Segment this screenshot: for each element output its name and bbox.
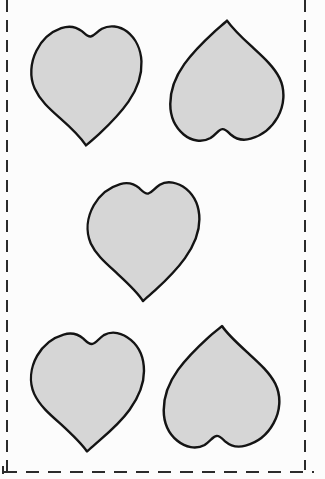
heart-bottom-left-path: [31, 333, 144, 452]
heart-bottom-left-svg: [27, 321, 147, 455]
heart-bottom-right-svg: [160, 323, 284, 460]
bottom-cut-line: [4, 471, 314, 473]
left-cut-line: [6, 0, 8, 474]
right-cut-line: [304, 0, 306, 470]
heart-top-right-path: [170, 21, 283, 141]
heart-middle-center-path: [88, 182, 200, 301]
heart-top-left: [27, 14, 145, 149]
bottom-left-corner-tick: [2, 466, 4, 474]
heart-bottom-left: [27, 321, 147, 455]
printable-heart-template-page: [0, 0, 325, 479]
heart-bottom-right: [160, 323, 284, 460]
heart-top-right: [166, 17, 288, 153]
heart-middle-center-svg: [83, 170, 203, 304]
heart-top-left-svg: [27, 14, 145, 149]
heart-middle-center: [83, 170, 203, 304]
heart-top-right-svg: [166, 17, 288, 153]
heart-bottom-right-path: [164, 326, 280, 448]
heart-top-left-path: [31, 26, 141, 145]
